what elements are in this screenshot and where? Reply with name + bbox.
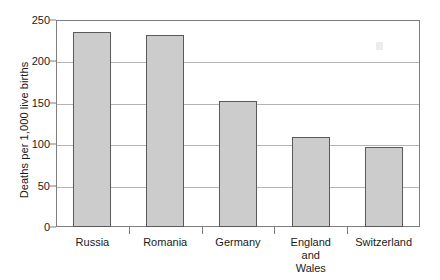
x-tick-mark — [347, 227, 348, 234]
y-tick-label: 50 — [18, 180, 50, 192]
x-label-line: England — [274, 236, 347, 249]
y-tick-label: 250 — [18, 14, 50, 26]
bar-slot — [274, 20, 347, 227]
bar[interactable] — [365, 147, 403, 227]
x-axis-category-label: Russia — [56, 236, 129, 249]
x-label-line: Wales — [274, 262, 347, 275]
y-tick-label: 200 — [18, 55, 50, 67]
x-tick-mark — [202, 227, 203, 234]
x-label-line: and — [274, 249, 347, 262]
bar[interactable] — [292, 137, 330, 227]
x-label-line: Romania — [129, 236, 202, 249]
bar-slot — [202, 20, 275, 227]
x-axis-category-label: Switzerland — [347, 236, 420, 249]
x-tick-mark — [274, 227, 275, 234]
x-label-line: Germany — [202, 236, 275, 249]
bar[interactable] — [146, 35, 184, 227]
bars-layer — [56, 20, 420, 227]
scan-artifact — [376, 42, 383, 50]
x-axis-category-label: Germany — [202, 236, 275, 249]
x-label-line: Switzerland — [347, 236, 420, 249]
x-tick-mark — [129, 227, 130, 234]
bar[interactable] — [219, 101, 257, 227]
y-tick-label: 150 — [18, 97, 50, 109]
x-axis-category-label: Romania — [129, 236, 202, 249]
bar-chart: Deaths per 1,000 live births 05010015020… — [0, 0, 440, 280]
bar[interactable] — [73, 32, 111, 227]
x-label-line: Russia — [56, 236, 129, 249]
bar-slot — [56, 20, 129, 227]
x-axis-category-label: EnglandandWales — [274, 236, 347, 275]
bar-slot — [129, 20, 202, 227]
y-tick-label: 0 — [18, 221, 50, 233]
bar-slot — [347, 20, 420, 227]
y-tick-label: 100 — [18, 138, 50, 150]
